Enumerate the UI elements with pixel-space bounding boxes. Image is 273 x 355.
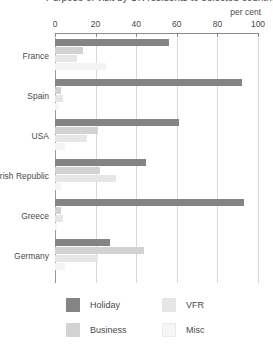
bar-business (55, 247, 144, 254)
bar-group: France (0, 38, 273, 78)
bar-group: USA (0, 118, 273, 158)
legend-swatch-icon (162, 298, 176, 312)
category-label: France (23, 51, 49, 61)
category-label: Greece (21, 211, 49, 221)
x-axis-tick-mark (55, 33, 56, 37)
legend-swatch-icon (66, 323, 80, 337)
x-axis-tick-labels: 020406080100 (0, 19, 273, 31)
bar-misc (55, 143, 65, 150)
bar-holiday (55, 119, 179, 126)
bar-holiday (55, 199, 244, 206)
category-label: Spain (27, 91, 49, 101)
bar-vfr (55, 255, 98, 262)
x-axis-tick-mark (136, 33, 137, 37)
legend-label: Holiday (90, 300, 120, 310)
bar-misc (55, 223, 57, 230)
bar-business (55, 127, 98, 134)
x-axis-tick-label: 40 (131, 19, 140, 29)
bar-group: Spain (0, 78, 273, 118)
bar-misc (55, 263, 65, 270)
chart-plot-area: 020406080100 FranceSpainUSAIrish Republi… (0, 0, 273, 290)
x-axis-tick-label: 20 (91, 19, 100, 29)
bar-misc (55, 63, 106, 70)
bar-misc (55, 183, 61, 190)
chart-bar-groups: FranceSpainUSAIrish RepublicGreeceGerman… (0, 38, 273, 283)
bar-group: Germany (0, 238, 273, 278)
bar-vfr (55, 175, 116, 182)
bar-vfr (55, 95, 63, 102)
legend-swatch-icon (66, 298, 80, 312)
bar-holiday (55, 159, 146, 166)
bar-business (55, 87, 61, 94)
x-axis-tick-label: 100 (251, 19, 265, 29)
category-label: Germany (14, 251, 49, 261)
bar-vfr (55, 135, 87, 142)
chart-legend: HolidayBusinessVFRMisc (0, 296, 273, 351)
x-axis-tick-label: 0 (53, 19, 58, 29)
bar-holiday (55, 239, 110, 246)
x-axis-tick-mark (177, 33, 178, 37)
x-axis-line (55, 33, 258, 34)
legend-label: Misc (186, 325, 205, 335)
bar-vfr (55, 215, 63, 222)
legend-label: VFR (186, 300, 204, 310)
x-axis-tick-mark (96, 33, 97, 37)
bar-misc (55, 103, 59, 110)
bar-holiday (55, 79, 242, 86)
bar-business (55, 47, 83, 54)
legend-label: Business (90, 325, 127, 335)
bar-business (55, 207, 61, 214)
x-axis-tick-mark (217, 33, 218, 37)
x-axis-tick-label: 80 (213, 19, 222, 29)
bar-vfr (55, 55, 77, 62)
x-axis-tick-label: 60 (172, 19, 181, 29)
bar-business (55, 167, 100, 174)
x-axis-tick-mark (258, 33, 259, 37)
bar-holiday (55, 39, 169, 46)
legend-swatch-icon (162, 323, 176, 337)
bar-group: Greece (0, 198, 273, 238)
bar-group: Irish Republic (0, 158, 273, 198)
category-label: USA (32, 131, 49, 141)
category-label: Irish Republic (0, 171, 49, 181)
